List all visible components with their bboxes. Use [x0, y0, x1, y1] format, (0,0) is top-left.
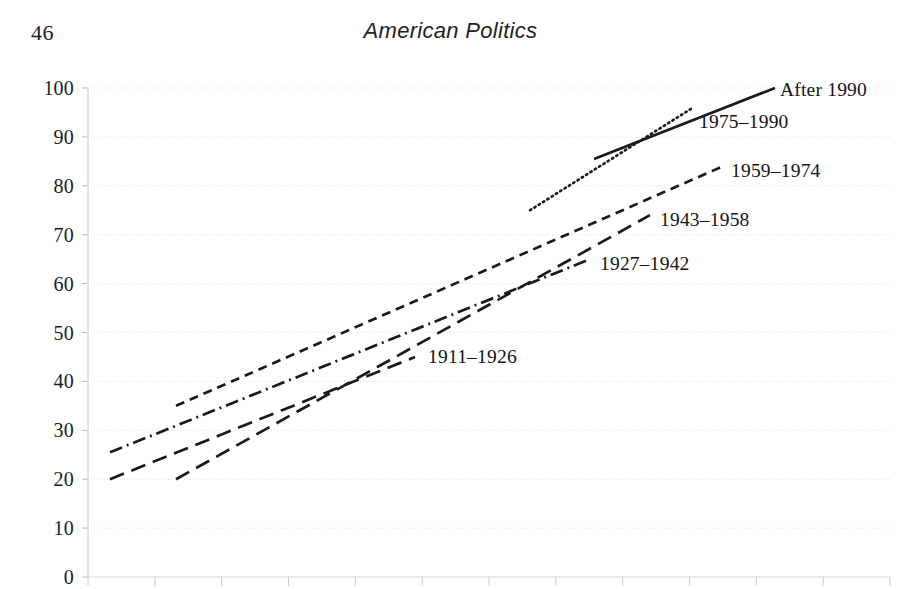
y-axis-tick-label: 30 — [18, 419, 74, 442]
series-label-1943-1958: 1943–1958 — [660, 209, 750, 231]
x-tick-group — [88, 577, 890, 586]
series-line-1959-1974 — [176, 166, 723, 406]
series-line-1943-1958 — [176, 215, 650, 479]
series-label-1911-1926: 1911–1926 — [428, 346, 517, 368]
y-axis-tick-label: 20 — [18, 468, 74, 491]
series-line-1975-1990 — [530, 108, 693, 211]
y-axis-tick-label: 80 — [18, 174, 74, 197]
y-axis-tick-label: 40 — [18, 370, 74, 393]
series-label-After 1990: After 1990 — [780, 79, 867, 101]
y-axis-tick-label: 70 — [18, 223, 74, 246]
series-line-1911-1926 — [110, 357, 415, 479]
y-axis-tick-label: 60 — [18, 272, 74, 295]
chart-canvas — [0, 0, 901, 589]
y-axis-tick-label: 10 — [18, 517, 74, 540]
line-chart-figure: 0102030405060708090100 After 19901975–19… — [0, 0, 901, 589]
y-axis-tick-label: 90 — [18, 125, 74, 148]
series-label-1975-1990: 1975–1990 — [699, 111, 789, 133]
y-axis-tick-label: 50 — [18, 321, 74, 344]
y-axis-tick-label: 100 — [18, 77, 74, 100]
y-axis-tick-label: 0 — [18, 566, 74, 589]
axis-group — [82, 88, 88, 577]
series-label-1959-1974: 1959–1974 — [731, 160, 821, 182]
series-label-1927-1942: 1927–1942 — [600, 253, 690, 275]
